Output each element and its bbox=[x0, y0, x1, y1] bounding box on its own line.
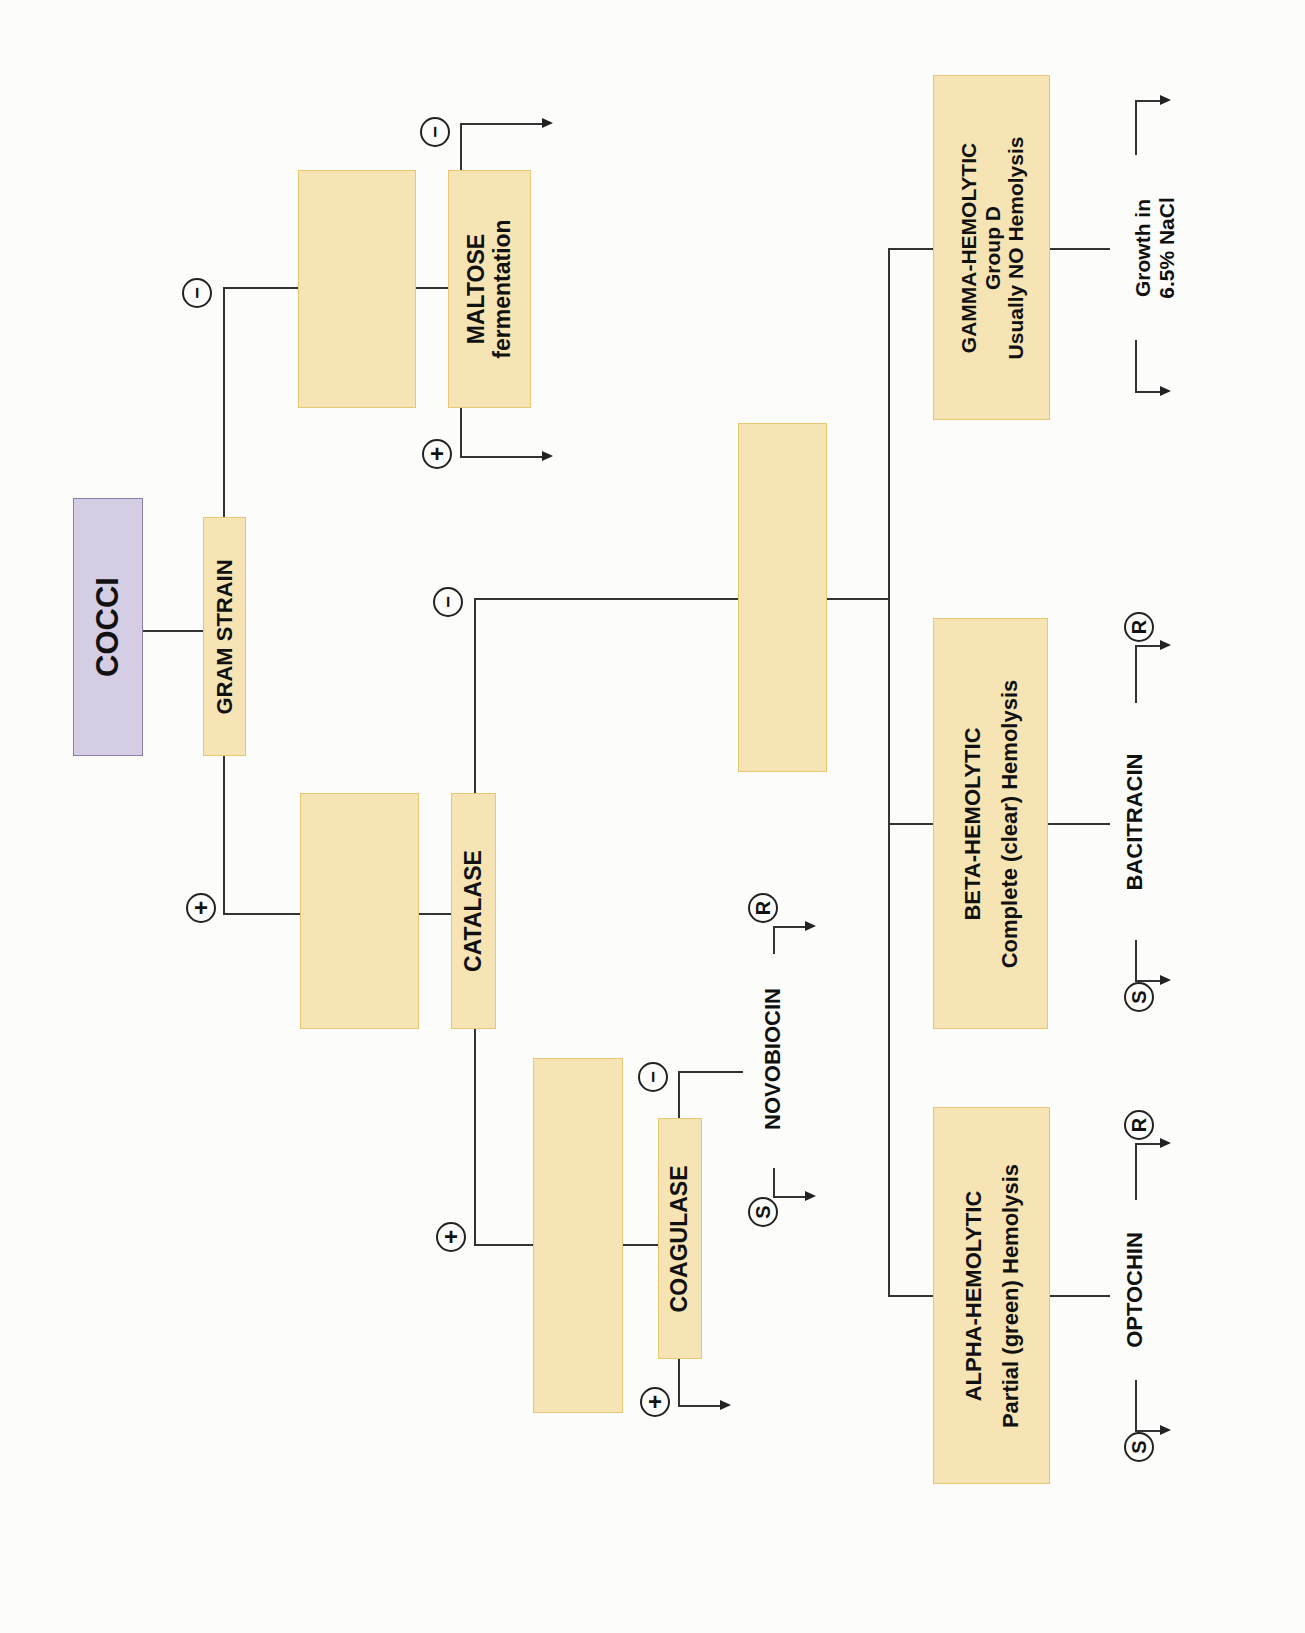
connector bbox=[474, 1029, 476, 1244]
optochin-test: OPTOCHIN bbox=[1117, 1200, 1153, 1380]
arrow-right-icon bbox=[542, 118, 553, 128]
bacitracin-test: BACITRACIN bbox=[1117, 703, 1153, 940]
connector bbox=[773, 1168, 775, 1196]
connector bbox=[1135, 391, 1160, 393]
catalase-positive-sign: + bbox=[436, 1222, 466, 1252]
arrow-right-icon bbox=[542, 451, 553, 461]
gram-positive-sign: + bbox=[186, 893, 216, 923]
connector bbox=[827, 598, 889, 600]
nacl-label: Growth in 6.5% NaCl bbox=[1131, 197, 1178, 299]
beta-label: BETA-HEMOLYTIC Complete (clear) Hemolysi… bbox=[953, 679, 1028, 968]
connector bbox=[223, 913, 300, 915]
connector bbox=[460, 123, 542, 125]
connector bbox=[1050, 248, 1110, 250]
plus-icon: + bbox=[194, 896, 208, 920]
connector bbox=[678, 1071, 743, 1073]
connector bbox=[623, 1244, 658, 1246]
nacl-line2: 6.5% NaCl bbox=[1155, 197, 1179, 299]
cocci-flowchart: COCCI GRAM STRAIN MALTOSE fermentation C… bbox=[0, 0, 1305, 1633]
connector bbox=[1135, 340, 1137, 392]
gamma-line2: Group D bbox=[980, 136, 1004, 359]
connector bbox=[460, 123, 462, 170]
nacl-line1: Growth in bbox=[1131, 197, 1155, 299]
connector bbox=[773, 926, 805, 928]
novobiocin-sensitive-sign: S bbox=[748, 1197, 778, 1227]
beta-line1: BETA-HEMOLYTIC bbox=[953, 679, 990, 968]
connector bbox=[1135, 645, 1137, 703]
connector bbox=[888, 248, 890, 1295]
connector bbox=[1135, 1143, 1137, 1200]
arrow-right-icon bbox=[720, 1400, 731, 1410]
bacitracin-label: BACITRACIN bbox=[1123, 753, 1148, 890]
novobiocin-resistant-sign: R bbox=[748, 893, 778, 923]
r-icon: R bbox=[1129, 620, 1149, 634]
connector bbox=[888, 823, 933, 825]
bacitracin-sensitive-sign: S bbox=[1124, 982, 1154, 1012]
s-icon: S bbox=[1129, 990, 1149, 1003]
arrow-right-icon bbox=[1160, 95, 1171, 105]
optochin-sensitive-sign: S bbox=[1124, 1432, 1154, 1462]
bacitracin-resistant-sign: R bbox=[1124, 612, 1154, 642]
gamma-label: GAMMA-HEMOLYTIC Group D Usually NO Hemol… bbox=[956, 136, 1027, 359]
connector bbox=[474, 1244, 533, 1246]
maltose-label: MALTOSE fermentation bbox=[464, 219, 516, 358]
r-icon: R bbox=[1129, 1118, 1149, 1132]
connector bbox=[1048, 823, 1110, 825]
gamma-line3: Usually NO Hemolysis bbox=[1003, 136, 1027, 359]
connector bbox=[1135, 100, 1137, 155]
arrow-right-icon bbox=[1160, 1425, 1171, 1435]
s-icon: S bbox=[753, 1205, 773, 1218]
optochin-resistant-sign: R bbox=[1124, 1110, 1154, 1140]
alpha-label: ALPHA-HEMOLYTIC Partial (green) Hemolysi… bbox=[954, 1163, 1029, 1427]
connector bbox=[1135, 940, 1137, 980]
maltose-line2: fermentation bbox=[490, 219, 516, 358]
coagulase-label: COAGULASE bbox=[667, 1165, 693, 1312]
catalase-label: CATALASE bbox=[461, 850, 487, 972]
connector bbox=[223, 287, 298, 289]
arrow-right-icon bbox=[1160, 975, 1171, 985]
connector bbox=[1135, 1143, 1160, 1145]
gamma-line1: GAMMA-HEMOLYTIC bbox=[956, 136, 980, 359]
connector bbox=[143, 630, 203, 632]
coagulase-positive-sign: + bbox=[640, 1387, 670, 1417]
minus-icon: − bbox=[438, 596, 458, 608]
connector bbox=[678, 1405, 720, 1407]
minus-icon: − bbox=[643, 1071, 663, 1083]
connector bbox=[416, 287, 448, 289]
r-icon: R bbox=[753, 901, 773, 915]
s-icon: S bbox=[1129, 1440, 1149, 1453]
maltose-positive-sign: + bbox=[422, 439, 452, 469]
gram-stain-node: GRAM STRAIN bbox=[203, 517, 246, 756]
arrow-right-icon bbox=[1160, 386, 1171, 396]
gram-positive-blank-box bbox=[300, 793, 419, 1029]
novobiocin-test: NOVOBIOCIN bbox=[755, 950, 791, 1168]
plus-icon: + bbox=[430, 442, 444, 466]
arrow-right-icon bbox=[1160, 1138, 1171, 1148]
maltose-node: MALTOSE fermentation bbox=[448, 170, 531, 408]
plus-icon: + bbox=[444, 1225, 458, 1249]
connector bbox=[1135, 645, 1160, 647]
arrow-right-icon bbox=[1160, 640, 1171, 650]
maltose-negative-sign: − bbox=[420, 117, 450, 147]
connector bbox=[474, 598, 738, 600]
connector bbox=[1050, 1295, 1110, 1297]
plus-icon: + bbox=[648, 1390, 662, 1414]
connector bbox=[1135, 1380, 1137, 1430]
connector bbox=[223, 756, 225, 913]
beta-hemolytic-node: BETA-HEMOLYTIC Complete (clear) Hemolysi… bbox=[933, 618, 1048, 1029]
alpha-line1: ALPHA-HEMOLYTIC bbox=[954, 1163, 991, 1427]
catalase-negative-sign: − bbox=[433, 587, 463, 617]
gamma-hemolytic-node: GAMMA-HEMOLYTIC Group D Usually NO Hemol… bbox=[933, 75, 1050, 420]
maltose-line1: MALTOSE bbox=[464, 219, 490, 358]
connector bbox=[888, 1295, 933, 1297]
coagulase-negative-sign: − bbox=[638, 1062, 668, 1092]
minus-icon: − bbox=[425, 126, 445, 138]
connector bbox=[419, 913, 451, 915]
connector bbox=[474, 598, 476, 793]
catalase-positive-blank-box bbox=[533, 1058, 623, 1413]
beta-line2: Complete (clear) Hemolysis bbox=[991, 679, 1028, 968]
connector bbox=[1135, 100, 1160, 102]
arrow-right-icon bbox=[805, 921, 816, 931]
nacl-growth-test: Growth in 6.5% NaCl bbox=[1115, 155, 1195, 340]
connector bbox=[678, 1359, 680, 1405]
